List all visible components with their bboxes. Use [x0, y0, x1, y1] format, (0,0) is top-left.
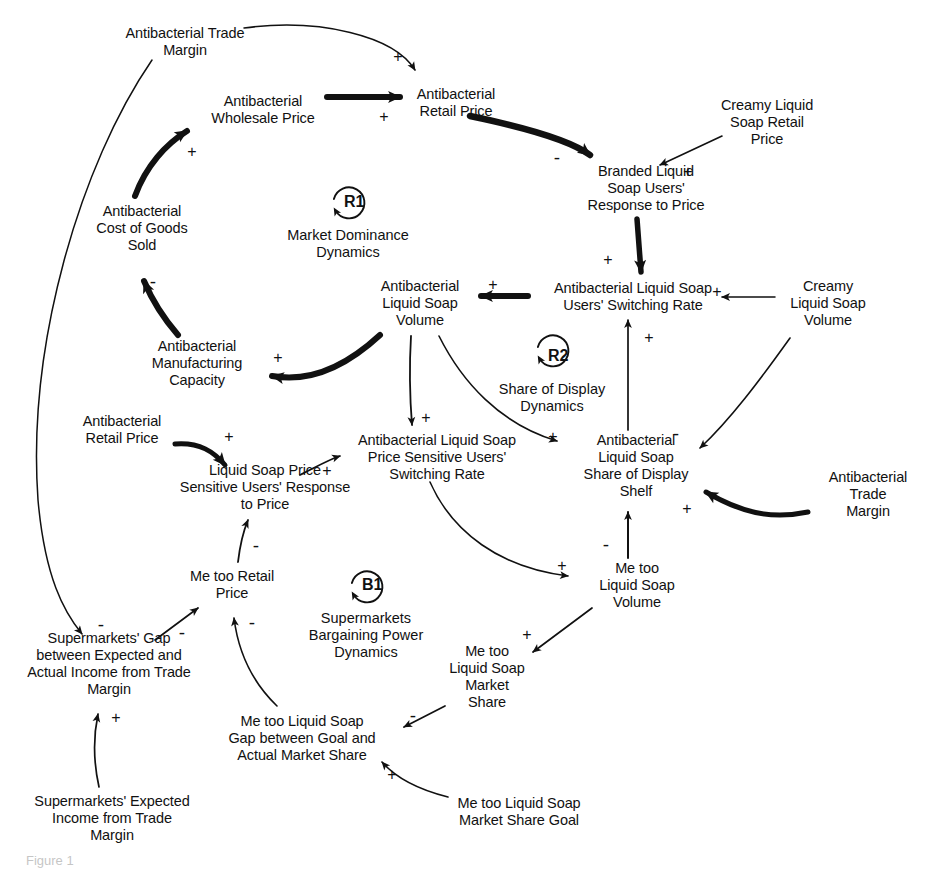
loop-r2[interactable]: R2 Share of Display Dynamics [499, 344, 605, 415]
loop-r2-code: R2 [548, 348, 568, 364]
node-me-too-liquid-soap-volume[interactable]: Me too Liquid Soap Volume [599, 560, 675, 611]
polarity-marker: + [522, 627, 531, 643]
loop-b1-code: B1 [362, 577, 382, 593]
loop-r1-badge: R1 [320, 190, 376, 230]
polarity-marker: + [387, 767, 396, 783]
link-trade-margin-to-retail-price [244, 25, 415, 70]
polarity-marker: + [111, 710, 120, 726]
node-creamy-liquid-soap-retail-price[interactable]: Creamy Liquid Soap Retail Price [721, 97, 813, 148]
causal-loop-diagram: Antibacterial Trade Margin Antibacterial… [0, 0, 943, 870]
node-antibacterial-trade-margin-top[interactable]: Antibacterial Trade Margin [126, 25, 245, 59]
polarity-marker: + [224, 429, 233, 445]
polarity-marker: + [603, 252, 612, 268]
node-me-too-liquid-soap-market-share-goal[interactable]: Me too Liquid Soap Market Share Goal [457, 795, 580, 829]
loop-b1[interactable]: B1 Supermarkets Bargaining Power Dynamic… [309, 573, 423, 661]
node-antibacterial-liquid-soap-users-switching-rate[interactable]: Antibacterial Liquid Soap Users' Switchi… [554, 280, 712, 314]
node-antibacterial-trade-margin-right[interactable]: Antibacterial Trade Margin [829, 469, 908, 520]
link-antibac-volume-to-price-sens-switching [410, 336, 412, 425]
polarity-marker: - [249, 613, 255, 632]
polarity-marker: + [682, 501, 691, 517]
node-me-too-liquid-soap-market-share[interactable]: Me too Liquid Soap Market Share [449, 643, 525, 711]
link-price-sens-switching-to-metoo-volume [430, 482, 568, 576]
polarity-marker: + [712, 284, 721, 300]
link-antibac-volume-to-mfg-capacity [272, 335, 380, 378]
link-trade-margin-to-share-display [706, 492, 808, 515]
node-antibacterial-liquid-soap-price-sensitive-users-switching-rate[interactable]: Antibacterial Liquid Soap Price Sensitiv… [358, 432, 516, 483]
polarity-marker: + [273, 350, 282, 366]
polarity-marker: - [179, 623, 185, 642]
node-supermarkets-gap-expected-actual-income[interactable]: Supermarkets' Gap between Expected and A… [27, 630, 191, 698]
link-creamy-volume-to-share-display [700, 338, 790, 448]
node-creamy-liquid-soap-volume[interactable]: Creamy Liquid Soap Volume [790, 278, 866, 329]
node-antibacterial-manufacturing-capacity[interactable]: Antibacterial Manufacturing Capacity [152, 338, 243, 389]
node-antibacterial-wholesale-price[interactable]: Antibacterial Wholesale Price [211, 93, 314, 127]
loop-r2-label: Share of Display Dynamics [499, 381, 605, 415]
loop-b1-label: Supermarkets Bargaining Power Dynamics [309, 610, 423, 661]
link-gap-to-metoo-retail-price [234, 618, 277, 706]
polarity-marker: - [673, 424, 679, 443]
node-antibacterial-cost-of-goods-sold[interactable]: Antibacterial Cost of Goods Sold [96, 203, 187, 254]
node-antibacterial-liquid-soap-volume[interactable]: Antibacterial Liquid Soap Volume [381, 278, 460, 329]
loop-r1-label: Market Dominance Dynamics [287, 227, 409, 261]
polarity-marker: + [548, 429, 557, 445]
polarity-marker: + [557, 558, 566, 574]
link-branded-response-to-switching-rate [637, 219, 641, 272]
polarity-marker: - [150, 272, 156, 291]
polarity-marker: - [554, 148, 560, 167]
polarity-marker: + [187, 144, 196, 160]
polarity-marker: + [421, 410, 430, 426]
polarity-marker: + [488, 277, 497, 293]
polarity-marker: + [393, 49, 402, 65]
polarity-marker: - [410, 706, 416, 725]
link-retail-price-to-branded-response [470, 116, 590, 155]
link-metoo-retail-to-response [238, 520, 248, 562]
polarity-marker: + [379, 109, 388, 125]
loop-r1-code: R1 [344, 194, 364, 210]
node-antibacterial-retail-price-mid[interactable]: Antibacterial Retail Price [83, 413, 162, 447]
node-antibacterial-retail-price-top[interactable]: Antibacterial Retail Price [417, 86, 496, 120]
link-creamy-price-to-branded-response [660, 136, 722, 165]
node-supermarkets-expected-income-from-trade-margin[interactable]: Supermarkets' Expected Income from Trade… [34, 793, 189, 844]
polarity-marker: - [603, 535, 609, 554]
node-me-too-liquid-soap-gap-goal-actual-market-share[interactable]: Me too Liquid Soap Gap between Goal and … [228, 713, 375, 764]
polarity-marker: + [644, 330, 653, 346]
polarity-marker: + [322, 463, 331, 479]
link-metoo-volume-to-market-share [533, 608, 592, 652]
polarity-marker: + [683, 164, 692, 180]
loop-r1[interactable]: R1 Market Dominance Dynamics [287, 190, 409, 261]
polarity-marker: - [253, 536, 259, 555]
link-trade-margin-to-supermarkets-gap [37, 60, 152, 634]
polarity-marker: - [98, 615, 104, 634]
figure-caption: Figure 1 [26, 853, 74, 868]
loop-r2-badge: R2 [524, 344, 580, 384]
link-expected-income-to-supermarkets-gap [94, 714, 99, 787]
loop-b1-badge: B1 [338, 573, 394, 613]
link-cogs-to-wholesale-price [135, 131, 187, 196]
node-me-too-retail-price[interactable]: Me too Retail Price [190, 568, 274, 602]
